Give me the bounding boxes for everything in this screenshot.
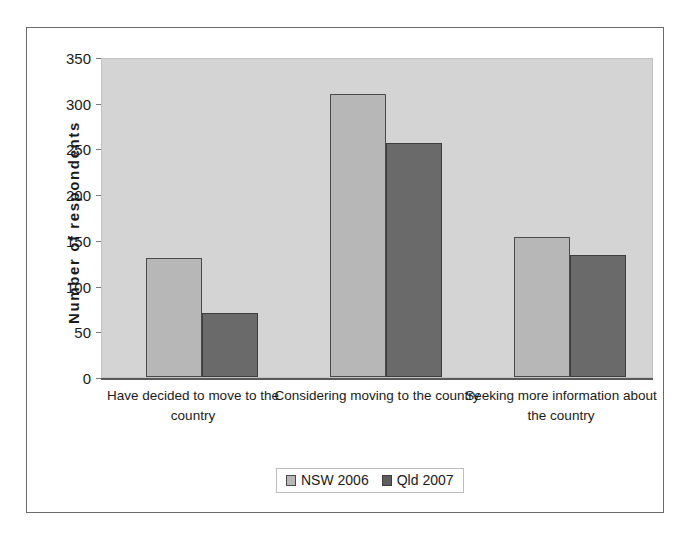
x-axis-category-label: Have decided to move to the country xyxy=(89,386,297,425)
legend-entry: Qld 2007 xyxy=(382,472,454,488)
y-axis-tick-label: 200 xyxy=(47,187,91,204)
y-axis-tick-label: 300 xyxy=(47,95,91,112)
chart-legend: NSW 2006Qld 2007 xyxy=(276,468,464,493)
bar xyxy=(570,255,626,377)
x-axis-line xyxy=(101,378,653,380)
plot-area xyxy=(101,58,653,378)
legend-label: Qld 2007 xyxy=(397,472,454,488)
x-axis-category-label: Considering moving to the country xyxy=(273,386,481,406)
legend-entry: NSW 2006 xyxy=(286,472,369,488)
y-axis-tick-label: 0 xyxy=(47,370,91,387)
bar xyxy=(386,143,442,377)
x-axis-category-label: Seeking more information about the count… xyxy=(457,386,665,425)
legend-swatch-icon xyxy=(382,475,392,486)
y-axis-tick-label: 50 xyxy=(47,324,91,341)
chart-frame: Number of respondents 050100150200250300… xyxy=(26,27,664,513)
legend-label: NSW 2006 xyxy=(301,472,369,488)
bar xyxy=(202,313,258,377)
bar xyxy=(330,94,386,377)
y-axis-tick-label: 150 xyxy=(47,232,91,249)
bar xyxy=(146,258,202,377)
bar xyxy=(514,237,570,377)
legend-swatch-icon xyxy=(286,475,296,486)
y-axis-tick-label: 350 xyxy=(47,50,91,67)
y-axis-tick-label: 100 xyxy=(47,278,91,295)
y-axis-tick-label: 250 xyxy=(47,141,91,158)
